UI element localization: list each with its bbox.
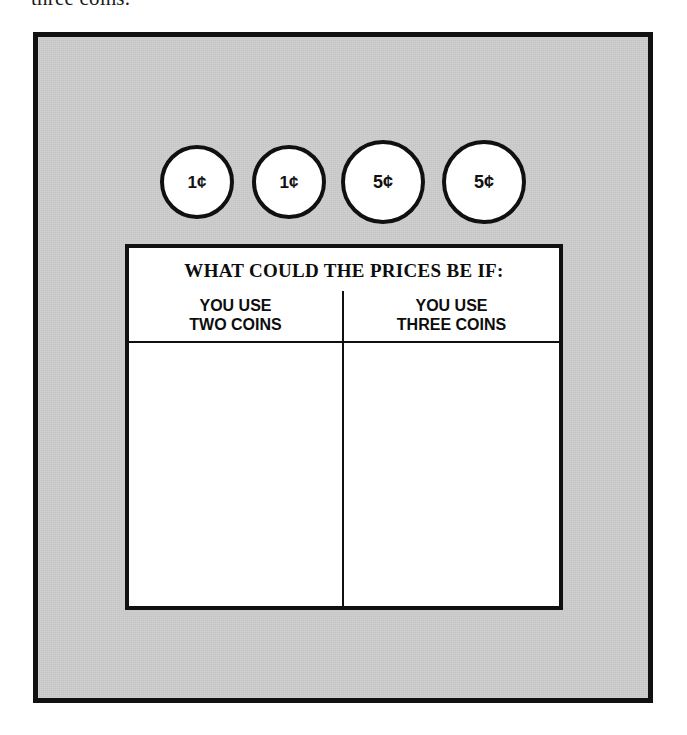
table-body (129, 343, 559, 606)
coin-1[interactable]: 1¢ (160, 145, 234, 219)
column-header-three-coins-line2: THREE COINS (397, 316, 506, 335)
worksheet-panel: 1¢ 1¢ 5¢ 5¢ WHAT COULD THE PRICES BE IF:… (33, 32, 653, 703)
coin-1-label: 1¢ (188, 174, 207, 191)
coin-2[interactable]: 1¢ (252, 145, 326, 219)
column-header-three-coins-line1: YOU USE (415, 297, 487, 316)
column-header-two-coins-line1: YOU USE (199, 297, 271, 316)
coin-4[interactable]: 5¢ (442, 140, 526, 224)
column-header-two-coins: YOU USE TWO COINS (129, 291, 344, 341)
answer-table: WHAT COULD THE PRICES BE IF: YOU USE TWO… (125, 244, 563, 610)
answer-area-three-coins[interactable] (344, 343, 559, 606)
coin-row: 1¢ 1¢ 5¢ 5¢ (38, 140, 648, 235)
coin-2-label: 1¢ (280, 174, 299, 191)
answer-area-two-coins[interactable] (129, 343, 344, 606)
table-header-row: YOU USE TWO COINS YOU USE THREE COINS (129, 291, 559, 343)
column-header-two-coins-line2: TWO COINS (189, 316, 281, 335)
coin-4-label: 5¢ (474, 173, 494, 191)
coin-3[interactable]: 5¢ (341, 140, 425, 224)
cut-off-instruction-text: three coins. (31, 0, 130, 11)
coin-3-label: 5¢ (373, 173, 393, 191)
column-header-three-coins: YOU USE THREE COINS (344, 291, 559, 341)
table-title: WHAT COULD THE PRICES BE IF: (129, 248, 559, 291)
